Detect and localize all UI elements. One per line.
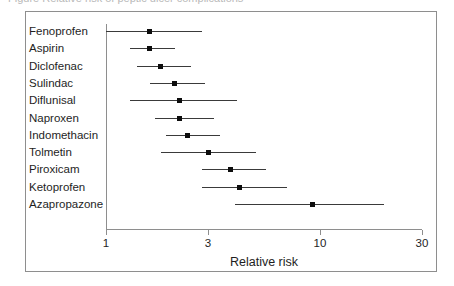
point-marker-tolmetin xyxy=(206,150,211,155)
ci-line-naproxen xyxy=(155,118,214,119)
row-label-piroxicam: Piroxicam xyxy=(29,163,79,175)
point-marker-sulindac xyxy=(172,81,177,86)
x-tick-label-1: 1 xyxy=(86,237,126,249)
row-label-naproxen: Naproxen xyxy=(29,112,79,124)
figure-frame: Relative risk 131030FenoprofenAspirinDic… xyxy=(25,11,437,272)
x-tick-label-10: 10 xyxy=(300,237,340,249)
x-axis-line xyxy=(106,229,422,230)
point-marker-diclofenac xyxy=(158,64,163,69)
x-tick-3 xyxy=(208,230,209,235)
x-tick-1 xyxy=(106,230,107,235)
row-label-ketoprofen: Ketoprofen xyxy=(29,181,85,193)
point-marker-indomethacin xyxy=(185,133,190,138)
point-marker-fenoprofen xyxy=(147,29,152,34)
row-label-indomethacin: Indomethacin xyxy=(29,129,98,141)
point-marker-ketoprofen xyxy=(237,185,242,190)
ci-line-ketoprofen xyxy=(202,187,287,188)
row-label-azapropazone: Azapropazone xyxy=(29,198,103,210)
forest-plot-area: Relative risk 131030FenoprofenAspirinDic… xyxy=(26,12,438,273)
row-label-aspirin: Aspirin xyxy=(29,42,64,54)
point-marker-aspirin xyxy=(147,46,152,51)
point-marker-diflunisal xyxy=(177,98,182,103)
row-label-diflunisal: Diflunisal xyxy=(29,94,76,106)
x-tick-label-3: 3 xyxy=(188,237,228,249)
ci-line-indomethacin xyxy=(166,135,220,136)
x-tick-30 xyxy=(422,230,423,235)
ci-line-fenoprofen xyxy=(106,31,202,32)
row-label-diclofenac: Diclofenac xyxy=(29,60,83,72)
x-tick-label-30: 30 xyxy=(402,237,442,249)
reference-line-at-1 xyxy=(106,24,107,229)
row-label-fenoprofen: Fenoprofen xyxy=(29,25,88,37)
x-axis-title: Relative risk xyxy=(164,255,364,269)
ci-line-diclofenac xyxy=(137,66,191,67)
row-label-tolmetin: Tolmetin xyxy=(29,146,72,158)
ci-line-aspirin xyxy=(130,48,175,49)
ci-line-diflunisal xyxy=(130,100,237,101)
cut-off-caption: Figure Relative risk of peptic ulcer com… xyxy=(8,0,338,5)
point-marker-azapropazone xyxy=(310,202,315,207)
point-marker-naproxen xyxy=(177,116,182,121)
x-tick-10 xyxy=(320,230,321,235)
point-marker-piroxicam xyxy=(228,167,233,172)
ci-line-piroxicam xyxy=(202,169,266,170)
row-label-sulindac: Sulindac xyxy=(29,77,73,89)
cut-off-caption-text: Figure Relative risk of peptic ulcer com… xyxy=(8,0,338,4)
